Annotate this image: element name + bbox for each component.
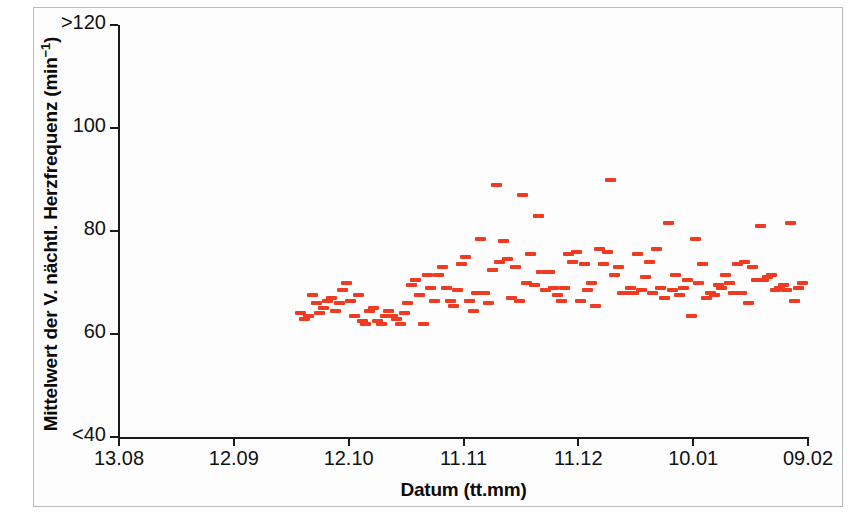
data-point: [395, 322, 406, 326]
data-point: [693, 281, 704, 285]
data-point: [422, 273, 433, 277]
data-point: [399, 311, 410, 315]
data-point: [602, 250, 613, 254]
data-point: [448, 304, 459, 308]
data-point: [391, 317, 402, 321]
data-point: [494, 260, 505, 264]
data-point: [690, 237, 701, 241]
data-point: [510, 265, 521, 269]
x-tick-mark: [233, 438, 235, 446]
data-point: [582, 288, 593, 292]
y-tick-mark: [110, 436, 118, 438]
data-point: [452, 288, 463, 292]
data-point: [670, 273, 681, 277]
data-point: [349, 314, 360, 318]
data-point: [429, 299, 440, 303]
data-point: [755, 224, 766, 228]
data-point: [387, 314, 398, 318]
y-tick-label: 60: [84, 321, 106, 341]
data-point: [590, 304, 601, 308]
data-point: [682, 278, 693, 282]
scatter-points: [0, 0, 863, 521]
data-point: [713, 283, 724, 287]
data-point: [418, 322, 429, 326]
data-point: [628, 291, 639, 295]
x-axis-title: Datum (tt.mm): [118, 479, 809, 501]
data-point: [621, 291, 632, 295]
data-point: [705, 291, 716, 295]
data-point: [774, 286, 785, 290]
y-tick-mark: [110, 24, 118, 26]
data-point: [506, 296, 517, 300]
data-point: [314, 311, 325, 315]
y-tick-label: <40: [72, 424, 106, 444]
data-point: [747, 265, 758, 269]
data-point: [701, 296, 712, 300]
data-point: [536, 270, 547, 274]
data-point: [376, 322, 387, 326]
x-tick-label: 13.08: [94, 448, 144, 468]
data-point: [380, 314, 391, 318]
data-point: [334, 301, 345, 305]
x-tick-label: 12.10: [324, 448, 374, 468]
data-point: [709, 293, 720, 297]
data-point: [502, 257, 513, 261]
y-tick-mark: [110, 230, 118, 232]
x-tick-mark: [348, 438, 350, 446]
data-point: [632, 252, 643, 256]
data-point: [479, 291, 490, 295]
data-point: [483, 301, 494, 305]
data-point: [609, 273, 620, 277]
data-point: [471, 291, 482, 295]
data-point: [544, 270, 555, 274]
data-point: [372, 319, 383, 323]
data-point: [341, 281, 352, 285]
data-point: [364, 309, 375, 313]
data-point: [778, 283, 789, 287]
data-point: [716, 286, 727, 290]
data-point: [552, 293, 563, 297]
data-point: [514, 299, 525, 303]
data-point: [724, 281, 735, 285]
data-point: [743, 301, 754, 305]
data-point: [460, 255, 471, 259]
data-point: [441, 286, 452, 290]
y-axis-title-exponent: −1: [38, 43, 53, 57]
x-tick-label: 10.01: [668, 448, 718, 468]
data-point: [563, 252, 574, 256]
data-point: [556, 299, 567, 303]
plot-area: >1201008060<40 13.0812.0912.1011.1111.12…: [0, 0, 863, 521]
data-point: [736, 291, 747, 295]
y-tick-label: 80: [84, 218, 106, 238]
y-tick-mark: [110, 333, 118, 335]
data-point: [475, 237, 486, 241]
data-point: [686, 314, 697, 318]
data-point: [318, 306, 329, 310]
y-tick-mark: [110, 127, 118, 129]
data-point: [739, 260, 750, 264]
data-point: [598, 262, 609, 266]
data-point: [498, 239, 509, 243]
data-point: [663, 221, 674, 225]
data-point: [406, 283, 417, 287]
data-point: [307, 293, 318, 297]
data-point: [326, 296, 337, 300]
data-point: [456, 262, 467, 266]
data-point: [697, 262, 708, 266]
data-point: [330, 309, 341, 313]
data-point: [517, 193, 528, 197]
data-point: [594, 247, 605, 251]
x-tick-mark: [577, 438, 579, 446]
data-point: [303, 314, 314, 318]
data-point: [636, 288, 647, 292]
data-point: [571, 250, 582, 254]
data-point: [402, 301, 413, 305]
y-tick-label: 100: [73, 115, 106, 135]
x-tick-label: 09.02: [783, 448, 833, 468]
data-point: [758, 278, 769, 282]
data-point: [667, 288, 678, 292]
data-point: [360, 322, 371, 326]
data-point: [337, 288, 348, 292]
x-tick-label: 11.11: [440, 448, 487, 468]
figure-container: >1201008060<40 13.0812.0912.1011.1111.12…: [0, 0, 863, 521]
